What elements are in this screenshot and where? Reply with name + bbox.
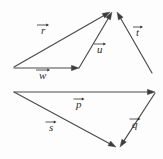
vector-arrow-accent-icon	[41, 22, 45, 26]
vector-line-s	[14, 92, 111, 144]
vector-diagram-figure: r w u t p s q	[0, 0, 163, 159]
vector-label-t: t	[136, 24, 139, 38]
vector-label-s: s	[49, 119, 53, 133]
vector-arrowhead-q	[120, 139, 126, 147]
vector-label-text-p: p	[76, 99, 82, 110]
vector-arrow-accent-icon	[136, 24, 139, 28]
vector-label-p: p	[76, 96, 82, 110]
vector-arrowhead-s	[108, 141, 116, 147]
vector-label-text-u: u	[97, 44, 103, 55]
vector-arrow-accent-icon	[97, 41, 103, 45]
vector-label-text-q: q	[132, 119, 138, 130]
vector-label-text-r: r	[41, 25, 45, 36]
vector-label-text-s: s	[49, 122, 53, 133]
vector-line-r	[14, 15, 105, 67]
vector-label-u: u	[97, 41, 103, 55]
vector-arrowhead-t	[117, 12, 123, 20]
vector-group-upper-triangle	[14, 12, 152, 73]
vector-label-text-t: t	[136, 27, 139, 38]
vector-label-q: q	[132, 116, 138, 130]
vector-label-text-w: w	[39, 70, 46, 81]
vector-arrow-accent-icon	[49, 119, 53, 123]
vector-label-w: w	[39, 67, 46, 81]
vector-arrowhead-w	[71, 65, 79, 70]
vector-arrow-accent-icon	[132, 116, 138, 120]
vector-label-r: r	[41, 22, 45, 36]
vector-arrow-accent-icon	[76, 96, 82, 100]
vector-arrow-accent-icon	[39, 67, 46, 71]
